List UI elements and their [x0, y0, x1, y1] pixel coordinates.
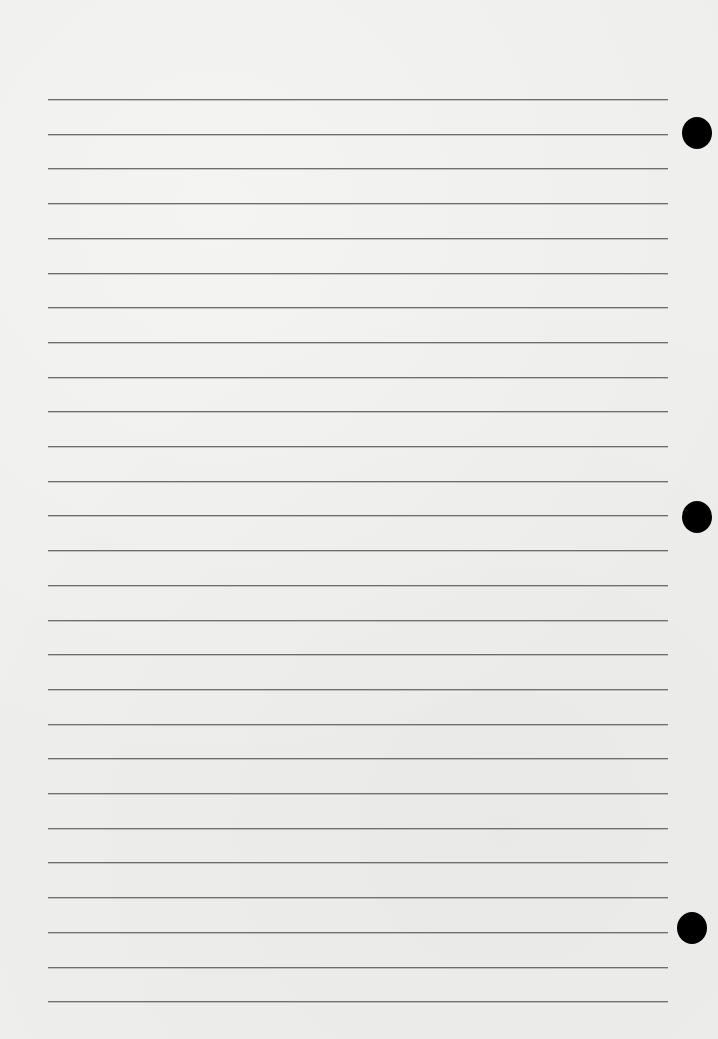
- ruled-line: [48, 654, 668, 655]
- punch-hole-icon: [682, 501, 712, 533]
- ruled-line: [48, 307, 668, 308]
- ruled-line: [48, 446, 668, 447]
- ruled-line: [48, 134, 668, 135]
- ruled-line: [48, 273, 668, 274]
- ruled-line: [48, 862, 668, 863]
- ruled-line: [48, 377, 668, 378]
- ruled-line: [48, 758, 668, 759]
- ruled-line: [48, 897, 668, 898]
- ruled-line: [48, 168, 668, 169]
- ruled-line: [48, 203, 668, 204]
- notebook-paper: [0, 0, 718, 1039]
- ruled-line: [48, 550, 668, 551]
- ruled-line: [48, 1001, 668, 1002]
- ruled-line: [48, 342, 668, 343]
- ruled-line: [48, 515, 668, 516]
- ruled-line: [48, 620, 668, 621]
- ruled-line: [48, 724, 668, 725]
- punch-hole-icon: [682, 117, 712, 149]
- ruled-line: [48, 828, 668, 829]
- ruled-line: [48, 793, 668, 794]
- ruled-line: [48, 238, 668, 239]
- ruled-line: [48, 481, 668, 482]
- punch-hole-icon: [677, 912, 707, 944]
- ruled-line: [48, 967, 668, 968]
- ruled-line: [48, 99, 668, 100]
- ruled-line: [48, 689, 668, 690]
- ruled-line: [48, 585, 668, 586]
- ruled-line: [48, 411, 668, 412]
- ruled-line: [48, 932, 668, 933]
